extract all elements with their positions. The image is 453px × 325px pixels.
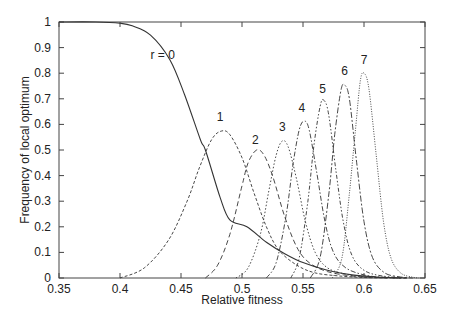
- y-tick-label: 0.2: [34, 220, 51, 234]
- plot-frame: [59, 22, 425, 278]
- curve-label: 3: [279, 120, 286, 134]
- y-tick-label: 0.5: [34, 143, 51, 157]
- curve-label: 7: [361, 53, 368, 67]
- y-tick-label: 0: [44, 271, 51, 285]
- y-tick-label: 0.6: [34, 117, 51, 131]
- curve-r4: [266, 121, 406, 278]
- axis-ticks: 0.350.40.450.50.550.60.6500.10.20.30.40.…: [34, 15, 437, 296]
- y-tick-label: 0.3: [34, 194, 51, 208]
- curve-r7: [332, 73, 419, 278]
- y-tick-label: 0.8: [34, 66, 51, 80]
- curve-r2: [205, 150, 400, 278]
- x-tick-label: 0.55: [291, 282, 315, 296]
- x-tick-label: 0.4: [112, 282, 129, 296]
- x-tick-label: 0.6: [356, 282, 373, 296]
- curve-label: 5: [319, 82, 326, 96]
- curve-r0: [59, 22, 401, 278]
- curve-label: r = 0: [151, 48, 176, 62]
- curve-label: 6: [341, 64, 348, 78]
- y-tick-label: 0.1: [34, 245, 51, 259]
- curve-label: 4: [298, 101, 305, 115]
- y-tick-label: 0.4: [34, 169, 51, 183]
- curve-r3: [236, 141, 407, 278]
- curve-label: 2: [252, 133, 259, 147]
- x-tick-label: 0.65: [413, 282, 437, 296]
- y-tick-label: 1: [44, 15, 51, 29]
- x-axis-label: Relative fitness: [201, 293, 282, 307]
- curve-r6: [310, 84, 413, 278]
- y-axis-label: Frequency of local optimum: [18, 76, 32, 223]
- y-tick-label: 0.7: [34, 92, 51, 106]
- chart: 0.350.40.450.50.550.60.6500.10.20.30.40.…: [0, 0, 453, 325]
- curve-label: 1: [217, 110, 224, 124]
- y-tick-label: 0.9: [34, 41, 51, 55]
- x-tick-label: 0.45: [169, 282, 193, 296]
